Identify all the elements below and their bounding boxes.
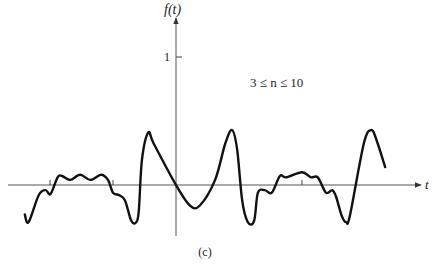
y-tick-label-0: 1 [164,50,170,64]
annotation-n-range: 3 ≤ n ≤ 10 [250,75,303,90]
figure-caption: (c) [198,245,211,259]
chart-canvas: 1 f(t) t 3 ≤ n ≤ 10 (c) [0,0,434,266]
x-axis-label: t [425,177,429,192]
series-line-fourier-sum [25,130,385,225]
y-axis-label: f(t) [164,2,181,18]
y-ticks: 1 [164,50,182,64]
